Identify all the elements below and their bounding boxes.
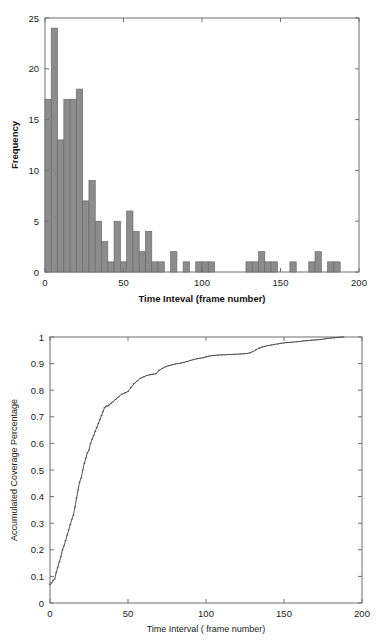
histogram-chart: 0501001502000510152025Time Inteval (fram… xyxy=(0,0,388,320)
histogram-bar xyxy=(158,262,164,272)
x-tick-label: 200 xyxy=(351,277,367,288)
x-tick-label: 150 xyxy=(276,608,292,619)
x-tick-label: 50 xyxy=(123,608,134,619)
histogram-bar xyxy=(290,262,296,272)
histogram-bar xyxy=(102,242,108,272)
y-tick-label: 1 xyxy=(39,332,44,343)
histogram-bar xyxy=(139,252,145,272)
figure-page: 0501001502000510152025Time Inteval (fram… xyxy=(0,0,388,640)
histogram-bar xyxy=(95,221,101,272)
x-tick-label: 100 xyxy=(194,277,210,288)
x-tick-label: 150 xyxy=(273,277,289,288)
y-tick-label: 0.3 xyxy=(31,518,44,529)
cdf-curve xyxy=(50,337,343,584)
y-axis-title: Accumulated Coverage Percentage xyxy=(9,399,19,541)
histogram-bar xyxy=(58,140,64,272)
y-tick-label: 0.1 xyxy=(31,571,44,582)
cdf-markers xyxy=(49,337,344,584)
x-axis-title: Time Interval ( frame number) xyxy=(147,624,266,634)
histogram-bar xyxy=(202,262,208,272)
y-tick-label: 0.2 xyxy=(31,544,44,555)
histogram-bar xyxy=(145,231,151,272)
histogram-bar xyxy=(246,262,252,272)
histogram-bar xyxy=(315,252,321,272)
histogram-bar xyxy=(196,262,202,272)
histogram-bar xyxy=(70,99,76,272)
histogram-bar xyxy=(127,211,133,272)
y-tick-label: 0.4 xyxy=(31,491,44,502)
cdf-chart: 05010015020000.10.20.30.40.50.60.70.80.9… xyxy=(0,320,388,640)
histogram-bar xyxy=(183,262,189,272)
x-axis-title: Time Inteval (frame number) xyxy=(138,293,265,304)
histogram-bar xyxy=(334,262,340,272)
y-tick-label: 0.6 xyxy=(31,438,44,449)
y-tick-label: 10 xyxy=(28,165,39,176)
histogram-bar xyxy=(76,89,82,272)
y-tick-label: 0.7 xyxy=(31,411,44,422)
histogram-bar xyxy=(309,262,315,272)
x-tick-label: 0 xyxy=(42,277,47,288)
y-tick-label: 0 xyxy=(39,598,44,609)
histogram-bar xyxy=(45,99,51,272)
histogram-bar xyxy=(259,252,265,272)
y-axis-title: Frequency xyxy=(9,120,20,169)
x-tick-label: 200 xyxy=(354,608,370,619)
histogram-bar xyxy=(152,262,158,272)
y-tick-label: 0.9 xyxy=(31,358,44,369)
y-tick-label: 0 xyxy=(34,267,39,278)
histogram-bar xyxy=(64,99,70,272)
x-tick-label: 100 xyxy=(198,608,214,619)
histogram-bar xyxy=(51,28,57,272)
histogram-bar xyxy=(252,262,258,272)
histogram-bar xyxy=(171,252,177,272)
histogram-bar xyxy=(114,221,120,272)
histogram-panel: 0501001502000510152025Time Inteval (fram… xyxy=(0,0,388,320)
x-tick-label: 50 xyxy=(118,277,129,288)
histogram-bar xyxy=(133,231,139,272)
histogram-bar xyxy=(108,262,114,272)
histogram-bar xyxy=(83,201,89,272)
histogram-bar xyxy=(328,262,334,272)
y-tick-label: 0.5 xyxy=(31,465,44,476)
histogram-bars xyxy=(45,28,340,272)
histogram-bar xyxy=(89,181,95,272)
histogram-bar xyxy=(271,262,277,272)
histogram-bar xyxy=(208,262,214,272)
x-tick-label: 0 xyxy=(47,608,52,619)
y-tick-label: 15 xyxy=(28,114,39,125)
cdf-panel: 05010015020000.10.20.30.40.50.60.70.80.9… xyxy=(0,320,388,640)
histogram-bar xyxy=(265,262,271,272)
y-tick-label: 20 xyxy=(28,63,39,74)
y-tick-label: 25 xyxy=(28,13,39,24)
y-tick-label: 5 xyxy=(34,216,39,227)
y-tick-label: 0.8 xyxy=(31,385,44,396)
